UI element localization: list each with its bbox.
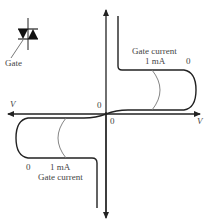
- q3-caption: Gate current: [38, 172, 83, 182]
- q1-caption: Gate current: [132, 46, 177, 56]
- triac-symbol-icon: [11, 18, 38, 58]
- v-axis-left-label: V: [10, 99, 17, 109]
- q3-label-1ma: 1 mA: [50, 162, 71, 172]
- triac-diagram: Gate Gate current 1 mA 0 0 1 mA Gate cur…: [0, 0, 212, 224]
- quadrant-3-curve: [16, 114, 106, 208]
- quadrant-1-gate-curve: [152, 70, 160, 110]
- v-axis-right-label: V: [197, 116, 204, 126]
- q3-label-0: 0: [26, 162, 31, 172]
- q1-label-0: 0: [186, 56, 191, 66]
- origin-label-upper: 0: [97, 100, 102, 110]
- origin-label-lower: 0: [110, 116, 115, 126]
- quadrant-3-gate-curve: [58, 118, 66, 158]
- q1-label-1ma: 1 mA: [145, 56, 166, 66]
- gate-label: Gate: [5, 58, 22, 68]
- axes: [8, 10, 200, 218]
